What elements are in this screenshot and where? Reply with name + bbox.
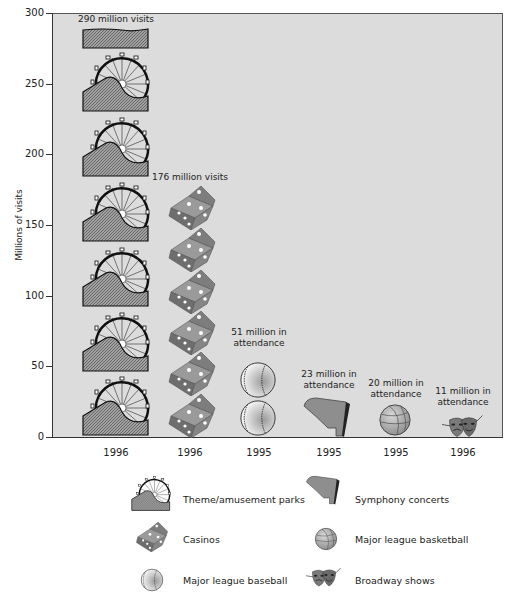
legend-label: Major league baseball [183, 575, 287, 587]
y-tick-label: 50 [4, 361, 44, 371]
ferris-wheel-icon [82, 376, 150, 436]
dice-icon [167, 228, 217, 272]
x-tick-label: 1995 [299, 447, 359, 458]
basketball-icon [378, 403, 412, 437]
y-tick-label: 0 [4, 432, 44, 442]
ferris-wheel-icon [82, 52, 150, 112]
y-tick-250 [46, 84, 52, 85]
value-label: 51 million in [214, 327, 304, 338]
y-tick-label: 300 [4, 8, 44, 18]
y-tick-100 [46, 296, 52, 297]
ferris-wheel-icon [131, 476, 171, 511]
value-label: 176 million visits [145, 172, 235, 183]
ferris-wheel-partial-icon [82, 28, 150, 49]
dice-icon [167, 311, 217, 355]
legend-label: Broadway shows [355, 575, 435, 587]
x-tick-label: 1996 [433, 447, 493, 458]
legend-label: Casinos [183, 534, 220, 546]
value-label: attendance [418, 397, 508, 408]
legend-label: Symphony concerts [355, 494, 449, 506]
theater-masks-icon [306, 566, 342, 588]
y-tick-150 [46, 225, 52, 226]
baseball-icon [140, 568, 164, 592]
value-label: attendance [214, 338, 304, 349]
y-tick-200 [46, 154, 52, 155]
y-tick-label: 150 [4, 220, 44, 230]
theater-masks-icon [435, 414, 491, 438]
dice-icon [167, 186, 217, 230]
basketball-icon [314, 527, 338, 551]
value-label: 11 million in [418, 386, 508, 397]
ferris-wheel-icon [82, 117, 150, 177]
ferris-wheel-icon [82, 312, 150, 372]
x-tick-label: 1995 [366, 447, 426, 458]
x-tick-label: 1995 [229, 447, 289, 458]
legend-label: Theme/amusement parks [183, 494, 305, 506]
y-tick-label: 100 [4, 291, 44, 301]
baseball-icon [239, 361, 277, 399]
dice-icon [167, 270, 217, 314]
dice-icon [135, 522, 169, 552]
x-tick-label: 1996 [160, 447, 220, 458]
y-tick-300 [46, 13, 52, 14]
y-tick-label: 200 [4, 149, 44, 159]
baseball-icon [239, 399, 277, 437]
y-tick-50 [46, 366, 52, 367]
x-tick-label: 1996 [86, 447, 146, 458]
y-tick-label: 250 [4, 79, 44, 89]
ferris-wheel-icon [82, 247, 150, 307]
legend-label: Major league basketball [355, 534, 468, 546]
y-tick-0 [46, 437, 52, 438]
y-axis [52, 13, 53, 438]
dice-icon [167, 352, 217, 396]
value-label: 290 million visits [71, 14, 161, 25]
dice-icon [167, 394, 217, 438]
piano-icon [302, 396, 352, 438]
ferris-wheel-icon [82, 182, 150, 242]
piano-icon [305, 474, 341, 506]
